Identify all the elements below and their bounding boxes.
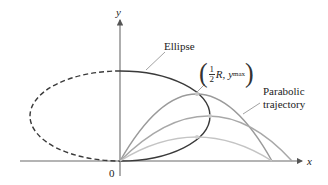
parabolic-label-line1: Parabolic	[263, 85, 305, 97]
ellipse-leader-line	[146, 52, 165, 70]
ellipse-label: Ellipse	[164, 40, 195, 52]
parabola-leader-line	[243, 103, 260, 114]
ellipse-dashed-half	[30, 71, 120, 161]
peak-point-high	[195, 92, 199, 96]
x-axis-label: x	[307, 155, 312, 167]
peak-point-low	[195, 135, 199, 139]
parabola-high	[120, 94, 272, 161]
y-axis-label: y	[116, 6, 121, 18]
origin-label: 0	[109, 167, 115, 179]
point-R: R,	[216, 68, 225, 80]
ellipse-solid-half	[120, 71, 210, 161]
peak-point-mid	[208, 114, 212, 118]
fraction-half: 1 2	[209, 65, 215, 84]
point-label: ( 1 2 R, ymax )	[199, 61, 254, 87]
right-paren: )	[245, 60, 254, 87]
fraction-denominator: 2	[209, 75, 214, 84]
fraction-numerator: 1	[209, 65, 214, 74]
point-ymax-subscript: max	[233, 70, 245, 78]
parabolic-label-line2: trajectory	[263, 98, 305, 110]
left-paren: (	[199, 60, 208, 87]
